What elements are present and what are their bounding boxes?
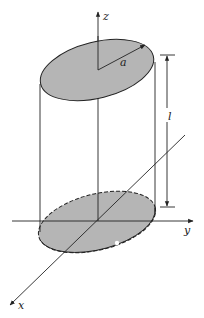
x-axis-label: x — [18, 299, 25, 312]
bottom-disk — [32, 180, 162, 263]
x-axis — [10, 135, 185, 305]
radius-label: a — [120, 56, 127, 69]
length-dimension — [160, 55, 175, 207]
length-label: l — [168, 110, 172, 123]
z-axis-label: z — [102, 10, 109, 23]
cylinder-diagram: y z a l x — [0, 0, 204, 318]
top-disk — [34, 29, 160, 111]
y-axis-label: y — [183, 224, 191, 237]
